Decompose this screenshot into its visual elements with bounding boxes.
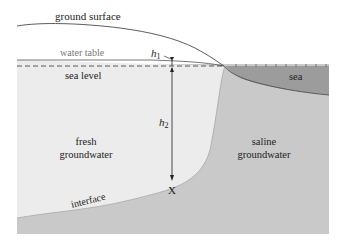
saline-groundwater-label-2: groundwater bbox=[237, 149, 291, 160]
sea-level-label: sea level bbox=[65, 70, 102, 81]
ground-surface-label: ground surface bbox=[55, 10, 121, 22]
ghyben-herzberg-diagram: ground surface water table sea level h1 … bbox=[0, 0, 340, 247]
fresh-groundwater-label-1: fresh bbox=[76, 136, 98, 147]
water-table-label: water table bbox=[60, 47, 105, 58]
sea-label: sea bbox=[289, 71, 303, 82]
point-x-label: X bbox=[168, 184, 176, 196]
saline-groundwater-label-1: saline bbox=[252, 136, 277, 147]
fresh-groundwater-label-2: groundwater bbox=[59, 149, 113, 160]
h1-leader bbox=[164, 56, 171, 59]
h1-label: h1 bbox=[151, 47, 161, 61]
